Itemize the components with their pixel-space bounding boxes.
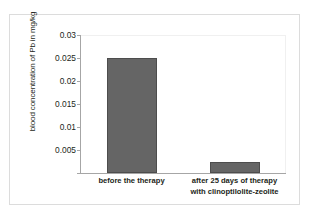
y-tick-label: 0.01: [34, 122, 76, 132]
y-tick-label: 0.02: [34, 76, 76, 86]
y-tick-mark: [77, 127, 81, 128]
y-tick-label: 0.025: [34, 53, 76, 63]
x-tick-label: after 25 days of therapywith clinoptilol…: [183, 176, 286, 197]
y-tick-mark: [77, 35, 81, 36]
bar: [107, 58, 157, 173]
x-tick-label-line: with clinoptilolite-zeolite: [183, 187, 286, 198]
x-tick-label-line: after 25 days of therapy: [183, 176, 286, 187]
y-tick-label: 0.015: [34, 99, 76, 109]
bars-layer: [80, 35, 286, 173]
y-tick-mark: [77, 104, 81, 105]
y-tick-label: 0.03: [34, 30, 76, 40]
y-tick-mark: [77, 58, 81, 59]
y-tick-label: 0.005: [34, 145, 76, 155]
x-axis-tick-labels: before the therapyafter 25 days of thera…: [80, 176, 286, 204]
chart-figure: blood concentration of Pb in mg/kg 0.005…: [9, 14, 300, 205]
x-tick-label-line: before the therapy: [80, 176, 183, 187]
bar: [210, 162, 260, 173]
y-tick-mark: [77, 173, 81, 174]
x-tick-label: before the therapy: [80, 176, 183, 187]
y-axis-tick-labels: 0.0050.010.0150.020.0250.03: [34, 30, 76, 174]
y-tick-mark: [77, 81, 81, 82]
y-tick-mark: [77, 150, 81, 151]
x-axis-line: [80, 173, 286, 174]
